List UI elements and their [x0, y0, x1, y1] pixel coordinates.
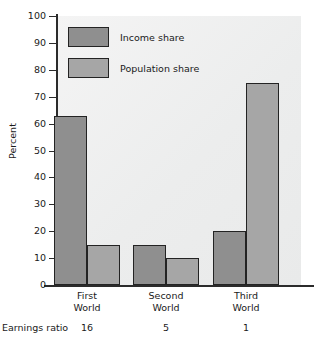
- y-tick-label: 30: [16, 199, 46, 209]
- y-tick-label-text: 20: [20, 226, 46, 236]
- chart-legend: Income share Population share: [68, 25, 228, 87]
- legend-item-income-share: Income share: [68, 25, 228, 49]
- y-tick-label: 80: [16, 65, 46, 75]
- y-tick-mark: [49, 16, 57, 17]
- y-tick-label: 40: [16, 172, 46, 182]
- y-tick-label-text: 40: [20, 172, 46, 182]
- y-tick-mark: [49, 70, 57, 71]
- x-axis-group-label: FirstWorld: [45, 290, 129, 313]
- y-tick-label-text: 70: [20, 92, 46, 102]
- legend-item-population-share: Population share: [68, 56, 228, 80]
- bar-third-world-population-share: [246, 83, 279, 285]
- y-tick-label: 60: [16, 119, 46, 129]
- y-tick-label: 90: [16, 38, 46, 48]
- y-tick-label: 0: [16, 280, 46, 290]
- y-tick-label: 50: [16, 146, 46, 156]
- earnings-ratio-value: 16: [45, 322, 129, 333]
- y-tick-label-text: 100: [20, 11, 46, 21]
- y-tick-label-text: 30: [20, 199, 46, 209]
- bar-first-world-income-share: [54, 116, 87, 285]
- y-tick-label-text: 60: [20, 119, 46, 129]
- earnings-ratio-value: 1: [204, 322, 288, 333]
- x-label-line-2: World: [204, 302, 288, 314]
- earnings-ratio-value: 5: [124, 322, 208, 333]
- x-axis-group-label: ThirdWorld: [204, 290, 288, 313]
- y-tick-label-text: 0: [20, 280, 46, 290]
- y-tick-mark: [49, 285, 57, 286]
- x-axis-group-label: SecondWorld: [124, 290, 208, 313]
- legend-swatch-income-share: [68, 27, 109, 47]
- bar-first-world-population-share: [87, 245, 120, 285]
- y-tick-label: 100: [16, 11, 46, 21]
- y-tick-mark: [49, 97, 57, 98]
- bar-second-world-income-share: [133, 245, 166, 285]
- x-label-line-1: Second: [124, 290, 208, 302]
- y-tick-label-text: 80: [20, 65, 46, 75]
- x-axis-line: [44, 285, 314, 287]
- legend-swatch-population-share: [68, 58, 109, 78]
- bar-second-world-population-share: [166, 258, 199, 285]
- y-axis-title: Percent: [8, 111, 18, 171]
- y-tick-label-text: 10: [20, 253, 46, 263]
- legend-label-population-share: Population share: [120, 63, 199, 74]
- x-label-line-1: Third: [204, 290, 288, 302]
- bar-chart-figure: 0102030405060708090100 Percent Income sh…: [0, 0, 327, 345]
- y-tick-label: 20: [16, 226, 46, 236]
- legend-label-income-share: Income share: [120, 32, 184, 43]
- x-label-line-1: First: [45, 290, 129, 302]
- y-tick-label: 70: [16, 92, 46, 102]
- bar-third-world-income-share: [213, 231, 246, 285]
- x-label-line-2: World: [45, 302, 129, 314]
- y-tick-mark: [49, 43, 57, 44]
- x-label-line-2: World: [124, 302, 208, 314]
- y-tick-label-text: 50: [20, 146, 46, 156]
- y-tick-label-text: 90: [20, 38, 46, 48]
- y-tick-label: 10: [16, 253, 46, 263]
